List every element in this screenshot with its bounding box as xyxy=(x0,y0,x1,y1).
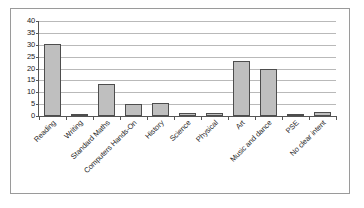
y-axis-tick-label: 5 xyxy=(31,100,35,108)
y-axis-tick-label: 35 xyxy=(27,29,35,37)
y-axis-tick-label: 15 xyxy=(27,77,35,85)
x-axis-category-label-text: Physical xyxy=(194,119,218,143)
x-axis-category-label-text: Reading xyxy=(32,119,57,144)
y-axis-tick-label: 10 xyxy=(27,89,35,97)
y-axis-tick-label: 0 xyxy=(31,112,35,120)
y-axis-tick-label: 25 xyxy=(27,53,35,61)
bar xyxy=(44,44,61,116)
x-axis-category-label-text: Writing xyxy=(63,119,84,140)
x-axis-category-label-text: Science xyxy=(168,119,192,143)
x-axis-labels: ReadingWritingStandard MathsComputers Ha… xyxy=(38,119,336,193)
x-axis-category-label-text: PSE xyxy=(284,119,300,135)
bar xyxy=(260,69,277,116)
y-axis-tick-label: 20 xyxy=(27,65,35,73)
y-axis-tick-label: 30 xyxy=(27,41,35,49)
y-axis-tick-label: 40 xyxy=(27,17,35,25)
x-axis-category-label-text: Art xyxy=(234,119,246,131)
x-axis-category-label-text: Computers Hands-On xyxy=(82,119,138,175)
chart-frame: 0510152025303540 ReadingWritingStandard … xyxy=(10,8,350,194)
x-axis-category-label-text: History xyxy=(143,119,164,140)
x-axis-tick-mark xyxy=(336,116,337,120)
